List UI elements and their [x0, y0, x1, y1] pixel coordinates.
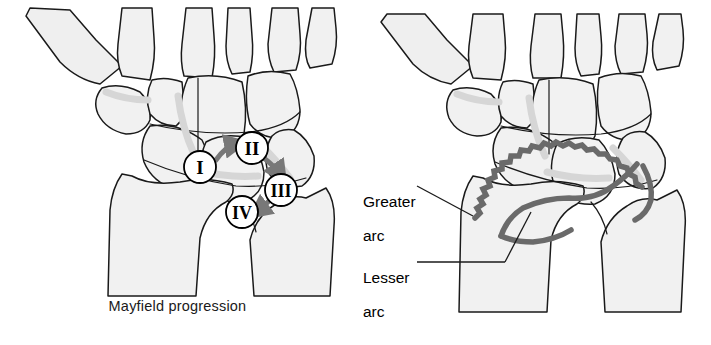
lesser-arc-label-line2: arc — [363, 303, 410, 320]
metacarpal-group — [26, 8, 337, 84]
left-wrist-illustration: I II III IV — [0, 0, 355, 300]
greater-arc-label-line1: Greater — [363, 193, 416, 210]
greater-arc-label: Greater arc — [363, 176, 416, 261]
mayfield-progression-panel: I II III IV Mayfield progression — [0, 0, 355, 345]
greater-arc-label-line2: arc — [363, 227, 416, 244]
panel-caption: Mayfield progression — [0, 298, 355, 314]
ulna-bone — [601, 190, 685, 312]
lesser-arc-label-line1: Lesser — [363, 269, 410, 286]
lesser-arc-label: Lesser arc — [363, 252, 410, 337]
anatomical-figure: I II III IV Mayfield progression — [0, 0, 711, 345]
carpal-arcs-panel: Greater arc Lesser arc — [355, 0, 711, 345]
radius-bone — [108, 174, 233, 296]
metacarpal-group — [381, 14, 684, 84]
